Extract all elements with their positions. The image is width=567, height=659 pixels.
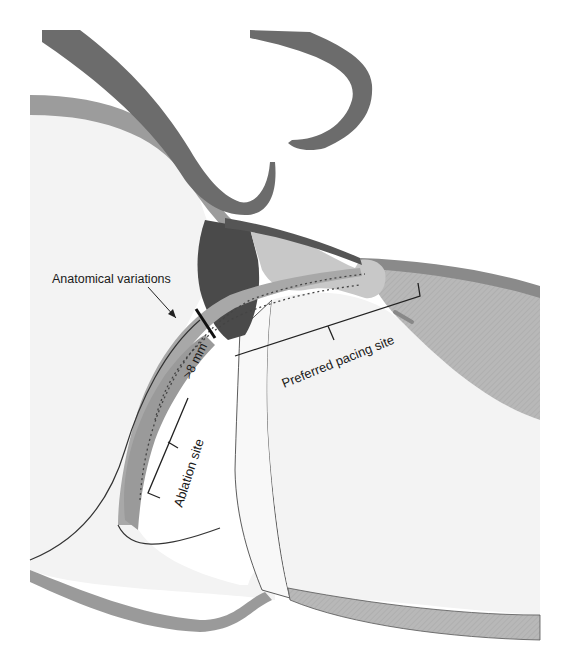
upper-curved-structure-right bbox=[250, 30, 372, 150]
left-chamber bbox=[30, 100, 275, 600]
anatomical-diagram: Anatomical variations >8 mm Preferred pa… bbox=[0, 0, 567, 659]
label-ablation-site: Ablation site bbox=[171, 437, 207, 509]
label-anatomical-variations: Anatomical variations bbox=[52, 272, 171, 286]
